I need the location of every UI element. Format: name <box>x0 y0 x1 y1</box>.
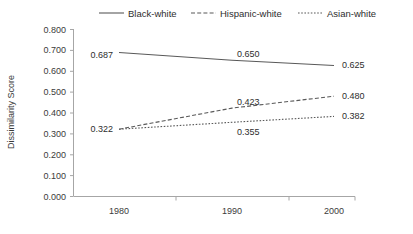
data-label-hispanic-white-2000: 0.480 <box>342 91 365 101</box>
x-tick-label-1980: 1980 <box>109 206 129 216</box>
data-label-asian-white-1990: 0.355 <box>237 127 260 137</box>
chart-legend: Black-white Hispanic-white Asian-white <box>99 8 376 19</box>
y-tick-label: 0.700 <box>43 45 66 55</box>
data-label-black-white-1990: 0.650 <box>237 49 260 59</box>
data-point-labels: 0.687 0.650 0.625 0.322 0.423 0.480 0.35… <box>90 49 364 137</box>
data-label-asian-white-2000: 0.382 <box>342 111 365 121</box>
legend-label-asian-white: Asian-white <box>327 8 376 19</box>
x-tick-label-1990: 1990 <box>222 206 242 216</box>
x-axis-ticks: 1980 1990 2000 <box>109 197 355 217</box>
y-tick-label: 0.300 <box>43 129 66 139</box>
y-tick-label: 0.100 <box>43 171 66 181</box>
dissimilarity-score-line-chart: Black-white Hispanic-white Asian-white D… <box>0 0 413 234</box>
y-axis-title: Dissimilarity Score <box>6 75 16 149</box>
y-tick-label: 0.500 <box>43 87 66 97</box>
legend-label-hispanic-white: Hispanic-white <box>220 8 282 19</box>
y-tick-label: 0.000 <box>43 192 66 202</box>
y-tick-label: 0.600 <box>43 66 66 76</box>
series-line-hispanic-white <box>119 96 334 129</box>
data-label-black-white-2000: 0.625 <box>342 60 365 70</box>
y-axis-ticks: 0.800 0.700 0.600 0.500 0.400 0.300 0.20… <box>43 25 73 202</box>
y-tick-label: 0.200 <box>43 150 66 160</box>
y-tick-label: 0.400 <box>43 108 66 118</box>
data-label-hispanic-white-1990: 0.423 <box>237 97 260 107</box>
legend-label-black-white: Black-white <box>128 8 177 19</box>
x-tick-label-2000: 2000 <box>324 206 344 216</box>
series-line-black-white <box>119 53 334 66</box>
chart-canvas: Black-white Hispanic-white Asian-white D… <box>0 0 413 234</box>
data-label-black-white-1980: 0.687 <box>90 50 113 60</box>
y-tick-label: 0.800 <box>43 25 66 35</box>
data-label-hispanic-white-1980: 0.322 <box>90 124 113 134</box>
